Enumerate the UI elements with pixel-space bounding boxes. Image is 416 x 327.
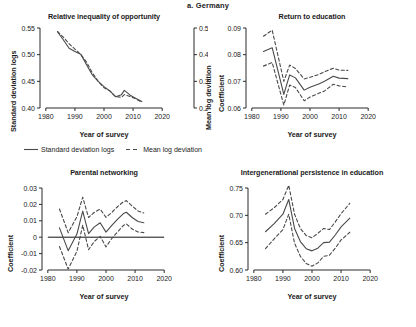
svg-text:1990: 1990	[273, 113, 289, 120]
svg-text:1980: 1980	[246, 275, 262, 282]
svg-text:2000: 2000	[96, 113, 112, 120]
svg-text:0: 0	[33, 234, 37, 241]
svg-text:1990: 1990	[69, 275, 85, 282]
figure-title: a. Germany	[0, 1, 416, 10]
y-axis-label: Coefficient	[6, 235, 15, 272]
svg-text:-0.01: -0.01	[21, 250, 37, 257]
svg-text:0.5: 0.5	[199, 25, 208, 32]
plot-area: 0.600.650.700.7519801990200020102020	[208, 168, 416, 308]
svg-text:2010: 2010	[333, 275, 349, 282]
svg-text:2010: 2010	[125, 113, 141, 120]
svg-text:0.07: 0.07	[227, 78, 241, 85]
x-axis-label: Year of survey	[0, 130, 208, 139]
svg-text:2000: 2000	[304, 275, 320, 282]
svg-text:0.08: 0.08	[227, 51, 241, 58]
x-axis-label: Year of survey	[208, 292, 416, 301]
svg-text:0.09: 0.09	[227, 25, 241, 32]
y-axis-label: Coefficient	[217, 235, 226, 272]
svg-text:0.03: 0.03	[23, 185, 37, 192]
legend-item-standard-deviation-logs: Standard deviation logs	[24, 146, 114, 153]
svg-text:0.4: 0.4	[199, 51, 208, 58]
x-axis-label: Year of survey	[208, 130, 416, 139]
figure-germany-panels: a. Germany Relative inequality of opport…	[0, 0, 416, 327]
svg-text:0.65: 0.65	[229, 239, 243, 246]
solid-line-icon	[24, 146, 38, 153]
svg-text:0.55: 0.55	[21, 25, 35, 32]
svg-text:2020: 2020	[360, 113, 376, 120]
svg-text:0.50: 0.50	[21, 51, 35, 58]
plot-area: -0.02-0.0100.010.020.0319801990200020102…	[0, 168, 208, 308]
legend-label: Mean log deviation	[143, 146, 202, 153]
svg-text:0.40: 0.40	[21, 105, 35, 112]
svg-text:2000: 2000	[98, 275, 114, 282]
svg-text:0.60: 0.60	[229, 267, 243, 274]
svg-text:0.75: 0.75	[229, 185, 243, 192]
svg-text:1980: 1980	[40, 275, 56, 282]
svg-text:2020: 2020	[156, 275, 172, 282]
legend: Standard deviation logs Mean log deviati…	[24, 146, 202, 153]
panel-title: Return to education	[208, 12, 416, 21]
y-axis-label: Standard deviation logs	[9, 51, 18, 132]
legend-item-mean-log-deviation: Mean log deviation	[126, 146, 202, 153]
legend-label: Standard deviation logs	[41, 146, 114, 153]
plot-area: 0.400.450.500.550.20.30.40.5198019902000…	[0, 12, 208, 144]
svg-text:0.01: 0.01	[23, 217, 37, 224]
svg-text:-0.02: -0.02	[21, 267, 37, 274]
y-axis-label: Coefficient	[217, 75, 226, 112]
svg-text:2020: 2020	[154, 113, 170, 120]
svg-text:2010: 2010	[331, 113, 347, 120]
panel-relative-inequality-of-opportunity: Relative inequality of opportunity Stand…	[0, 12, 208, 144]
svg-text:0.06: 0.06	[227, 105, 241, 112]
svg-text:0.02: 0.02	[23, 201, 37, 208]
panel-intergenerational-persistence-in-education: Intergenerational persistence in educati…	[208, 168, 416, 308]
svg-text:1980: 1980	[244, 113, 260, 120]
panel-title: Intergenerational persistence in educati…	[208, 168, 416, 177]
x-axis-label: Year of survey	[0, 292, 208, 301]
svg-text:1990: 1990	[275, 275, 291, 282]
svg-text:2010: 2010	[127, 275, 143, 282]
plot-area: 0.060.070.080.0919801990200020102020	[208, 12, 416, 144]
panel-title: Relative inequality of opportunity	[0, 12, 208, 21]
panel-title: Parental networking	[0, 168, 208, 177]
svg-text:0.70: 0.70	[229, 212, 243, 219]
svg-text:1990: 1990	[67, 113, 83, 120]
svg-text:2020: 2020	[362, 275, 378, 282]
panel-return-to-education: Return to education Coefficient Year of …	[208, 12, 416, 144]
panel-parental-networking: Parental networking Coefficient Year of …	[0, 168, 208, 308]
dashed-line-icon	[126, 146, 140, 153]
svg-text:0.45: 0.45	[21, 78, 35, 85]
svg-text:1980: 1980	[38, 113, 54, 120]
svg-text:2000: 2000	[302, 113, 318, 120]
